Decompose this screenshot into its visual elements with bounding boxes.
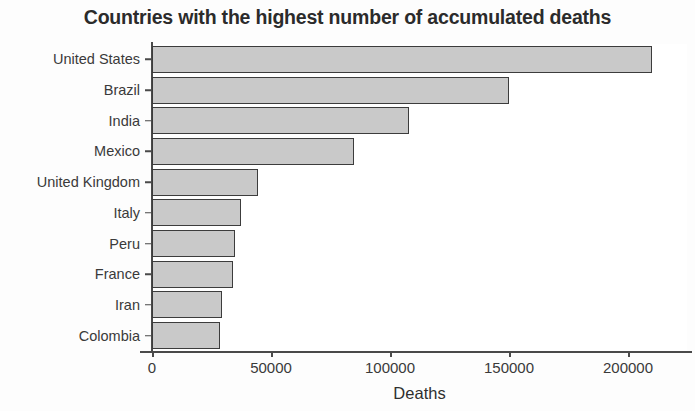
bar-iran	[152, 291, 222, 318]
bar-chart: Countries with the highest number of acc…	[0, 0, 695, 411]
y-tick-mark	[145, 274, 151, 276]
y-tick-label: Peru	[0, 236, 140, 252]
y-tick-mark	[145, 212, 151, 214]
x-tick-mark	[152, 351, 154, 357]
bar-rect	[152, 291, 222, 318]
x-axis-title: Deaths	[152, 384, 687, 403]
bar-rect	[152, 77, 509, 104]
y-tick-label: Iran	[0, 297, 140, 313]
x-tick-mark	[628, 351, 630, 357]
bar-india	[152, 107, 409, 134]
x-tick-label: 0	[148, 359, 156, 376]
bar-rect	[152, 138, 354, 165]
bar-italy	[152, 199, 241, 226]
bar-peru	[152, 230, 235, 257]
y-tick-mark	[145, 120, 151, 122]
x-tick-mark	[390, 351, 392, 357]
y-tick-label: Italy	[0, 205, 140, 221]
y-tick-label: Mexico	[0, 143, 140, 159]
bar-brazil	[152, 77, 509, 104]
bar-rect	[152, 46, 652, 73]
y-tick-mark	[145, 335, 151, 337]
y-tick-label: India	[0, 113, 140, 129]
y-tick-mark	[145, 59, 151, 61]
bar-mexico	[152, 138, 354, 165]
x-tick-label: 200000	[603, 359, 653, 376]
x-tick-mark	[509, 351, 511, 357]
chart-title: Countries with the highest number of acc…	[0, 6, 695, 29]
bar-rect	[152, 169, 258, 196]
y-tick-mark	[145, 181, 151, 183]
y-tick-label: United Kingdom	[0, 174, 140, 190]
bar-rect	[152, 261, 233, 288]
bar-rect	[152, 322, 220, 349]
y-tick-label: Colombia	[0, 328, 140, 344]
bar-france	[152, 261, 233, 288]
y-tick-mark	[145, 304, 151, 306]
bar-united-kingdom	[152, 169, 258, 196]
x-axis-line	[140, 351, 692, 353]
y-tick-mark	[145, 243, 151, 245]
x-tick-mark	[271, 351, 273, 357]
bar-colombia	[152, 322, 220, 349]
y-tick-mark	[145, 151, 151, 153]
y-tick-label: Brazil	[0, 82, 140, 98]
bar-rect	[152, 199, 241, 226]
x-tick-label: 50000	[250, 359, 292, 376]
x-tick-label: 100000	[365, 359, 415, 376]
y-tick-mark	[145, 89, 151, 91]
x-tick-label: 150000	[484, 359, 534, 376]
bar-united-states	[152, 46, 652, 73]
bar-rect	[152, 107, 409, 134]
y-tick-label: France	[0, 266, 140, 282]
bar-rect	[152, 230, 235, 257]
y-tick-label: United States	[0, 51, 140, 67]
